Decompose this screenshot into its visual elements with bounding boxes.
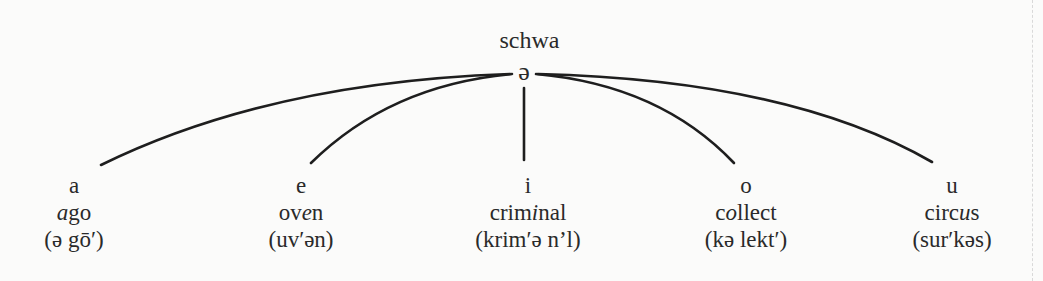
highlighted-vowel: u	[959, 200, 971, 225]
vowel-letter: i	[428, 172, 628, 199]
branch-e: e oven (uv′ən)	[201, 172, 401, 253]
line-to-e	[311, 74, 512, 163]
branch-i: i criminal (krim′ə n’l)	[428, 172, 628, 253]
branch-o: o collect (kə lekt′)	[646, 172, 846, 253]
example-word: collect	[646, 199, 846, 226]
line-to-u	[538, 74, 932, 162]
pronunciation: (uv′ən)	[201, 226, 401, 253]
example-word: criminal	[428, 199, 628, 226]
highlighted-vowel: o	[726, 200, 738, 225]
highlighted-vowel: e	[302, 200, 312, 225]
branch-u: u circus (sur′kəs)	[852, 172, 1043, 253]
example-word: oven	[201, 199, 401, 226]
pronunciation: (sur′kəs)	[852, 226, 1043, 253]
pronunciation: (ə gō′)	[0, 226, 174, 253]
page-edge-divider	[1031, 0, 1033, 281]
example-word: ago	[0, 199, 174, 226]
branch-a: a ago (ə gō′)	[0, 172, 174, 253]
diagram-title: schwa	[8, 27, 1043, 54]
example-word: circus	[852, 199, 1043, 226]
vowel-letter: u	[852, 172, 1043, 199]
highlighted-vowel: a	[57, 200, 69, 225]
vowel-letter: e	[201, 172, 401, 199]
schwa-symbol: ə	[514, 57, 534, 87]
pronunciation: (kə lekt′)	[646, 226, 846, 253]
line-to-a	[101, 74, 510, 165]
vowel-letter: o	[646, 172, 846, 199]
pronunciation: (krim′ə n’l)	[428, 226, 628, 253]
vowel-letter: a	[0, 172, 174, 199]
